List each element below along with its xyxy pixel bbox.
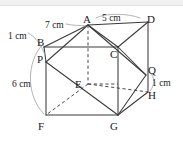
vertex-label-C: C [110,49,117,60]
edge-P-G [46,62,118,115]
dimension-label-bp: 1 cm [8,31,27,41]
vertex-label-F: F [38,121,44,132]
vertex-label-P: P [37,54,43,65]
vertex-label-D: D [147,14,155,25]
edge-A-P [46,25,88,62]
dimension-label-pf: 6 cm [12,79,31,89]
dimension-label-ba: 7 cm [45,20,64,30]
vertex-label-A: A [83,14,91,25]
edge-Q-G [118,75,146,115]
figure-canvas: A B C D E F G H P Q 5 cm 7 cm 1 cm 6 cm … [0,0,183,143]
vertex-label-E: E [75,79,82,90]
dimension-label-ad: 5 cm [102,13,121,23]
vertex-label-B: B [37,37,44,48]
edge-H-G [118,92,148,115]
vertex-label-Q: Q [148,65,156,76]
vertex-label-H: H [148,90,156,101]
dimension-label-qh: 1 cm [152,78,171,88]
solid-edges [44,22,148,115]
vertex-label-G: G [110,121,118,132]
edge-D-C [118,22,148,47]
